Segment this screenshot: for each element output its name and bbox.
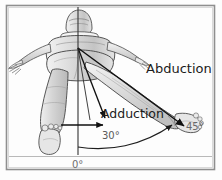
figure-illustration (0, 0, 222, 180)
figure-background (0, 0, 222, 180)
anatomy-figure: Abduction Adduction 30° 45° 0° (0, 0, 222, 180)
